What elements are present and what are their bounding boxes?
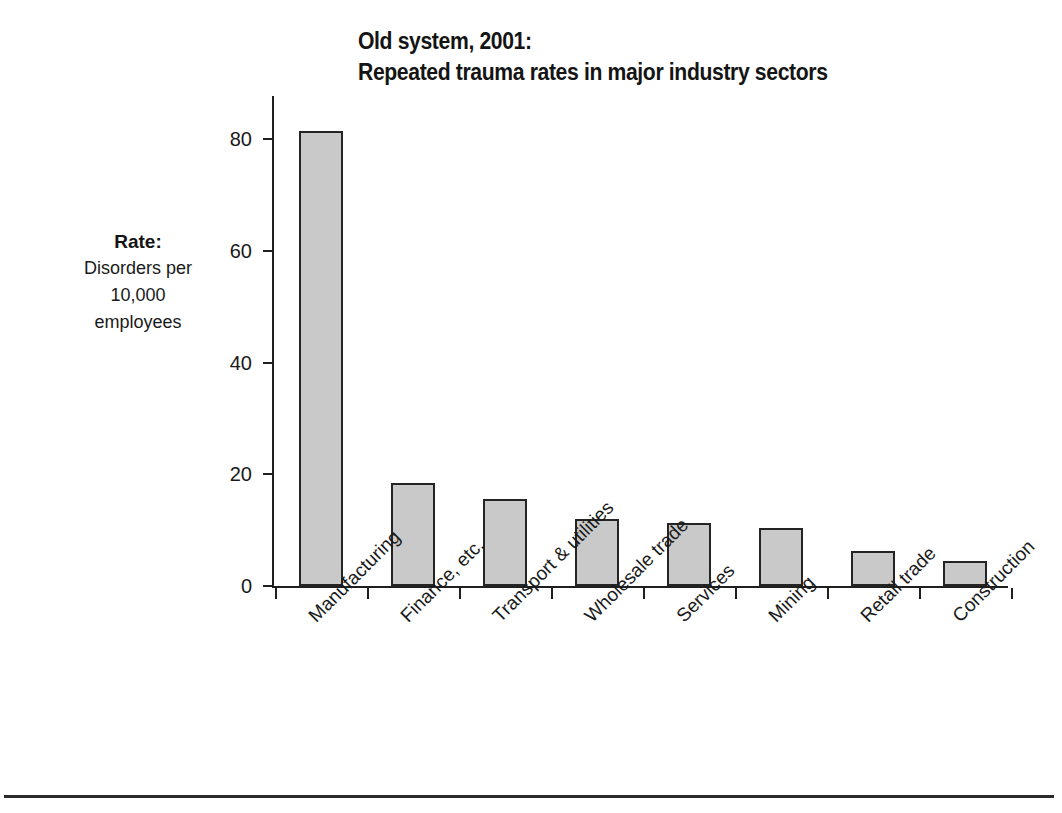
x-tick-8 <box>1011 588 1013 599</box>
y-tick-40 <box>263 362 273 364</box>
y-tick-label-60: 60 <box>192 241 252 261</box>
chart-figure: Old system, 2001: Repeated trauma rates … <box>0 0 1062 813</box>
plot-area: 020406080 <box>272 96 1008 588</box>
y-tick-80 <box>263 138 273 140</box>
y-tick-0 <box>263 585 273 587</box>
chart-title: Old system, 2001: Repeated trauma rates … <box>358 26 998 88</box>
x-tick-1 <box>367 588 369 599</box>
y-axis-line <box>272 96 274 588</box>
chart-title-line-2: Repeated trauma rates in major industry … <box>358 57 947 88</box>
x-tick-5 <box>735 588 737 599</box>
chart-title-line-1: Old system, 2001: <box>358 26 947 57</box>
y-axis-label-line-4: employees <box>38 309 238 336</box>
y-tick-label-20: 20 <box>192 464 252 484</box>
y-tick-20 <box>263 473 273 475</box>
bar <box>299 131 343 586</box>
x-tick-0 <box>275 588 277 599</box>
y-tick-label-40: 40 <box>192 353 252 373</box>
y-tick-60 <box>263 250 273 252</box>
y-axis-label-line-3: 10,000 <box>38 282 238 309</box>
bar <box>483 499 527 586</box>
x-tick-2 <box>459 588 461 599</box>
x-tick-3 <box>551 588 553 599</box>
x-tick-6 <box>827 588 829 599</box>
x-tick-7 <box>919 588 921 599</box>
bottom-divider <box>4 795 1054 798</box>
x-tick-4 <box>643 588 645 599</box>
y-tick-label-0: 0 <box>192 576 252 596</box>
y-tick-label-80: 80 <box>192 129 252 149</box>
